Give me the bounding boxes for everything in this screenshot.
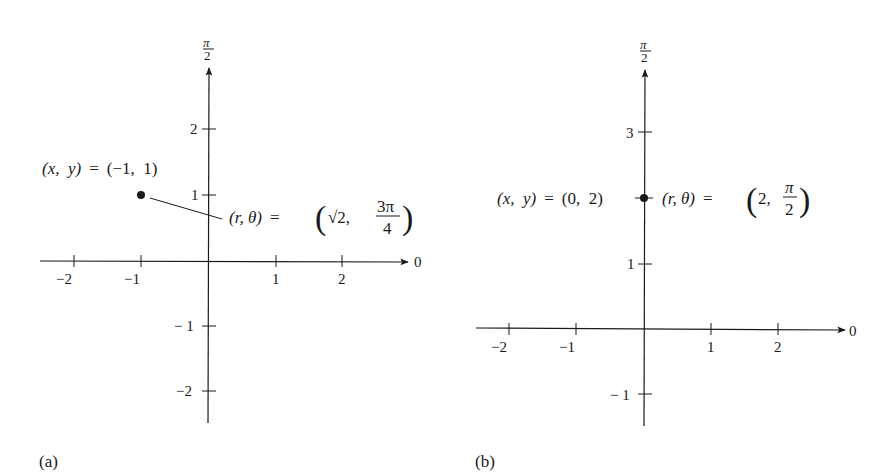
y-tick-label: −2 [176, 383, 192, 399]
svg-text:(: ( [746, 181, 757, 219]
vertical-axis [208, 68, 209, 423]
vertical-axis [644, 70, 645, 426]
figure-a: 0 π 2 −2 −1 1 2 2 1 − 1 −2 (x, y)=(−1, [40, 35, 422, 423]
horizontal-axis [40, 261, 408, 262]
svg-text:(: ( [315, 199, 326, 237]
horizontal-axis [476, 328, 845, 330]
y-tick-label: 2 [190, 121, 198, 137]
x-tick-label: 2 [774, 339, 782, 355]
pi-over-2-denominator: 2 [641, 50, 648, 65]
x-tick-label: 2 [338, 271, 346, 287]
svg-text:(r, θ)=: (r, θ)= [229, 208, 280, 227]
x-tick-label: −1 [559, 339, 575, 355]
caption-a: (a) [39, 452, 58, 472]
polar-coordinates-figure: 0 π 2 −2 −1 1 2 2 1 − 1 −2 (x, y)=(−1, [0, 0, 892, 474]
svg-text:): ) [799, 181, 810, 219]
svg-text:4: 4 [383, 219, 392, 238]
svg-text:3π: 3π [377, 197, 395, 216]
polar-axis-label: 0 [849, 323, 857, 339]
polar-axis-label: 0 [414, 254, 422, 270]
svg-text:2: 2 [785, 200, 794, 219]
pi-over-2-denominator: 2 [204, 48, 211, 63]
svg-text:(r, θ)=: (r, θ)= [662, 189, 713, 208]
x-tick-label: −1 [124, 271, 140, 287]
y-tick-label: 1 [627, 256, 635, 272]
rectangular-coordinates-label: (x, y)=(−1, 1) [42, 159, 157, 178]
plotted-point [137, 191, 145, 199]
polar-coordinates-label: (r, θ)= ( √2, 3π 4 ) [229, 197, 413, 238]
svg-text:π: π [785, 178, 794, 197]
y-tick-label: − 1 [610, 387, 630, 403]
svg-text:√2,: √2, [328, 208, 350, 227]
y-tick-label: 1 [191, 187, 199, 203]
svg-text:): ) [402, 199, 413, 237]
leader-line [150, 198, 222, 219]
y-tick-label: 3 [626, 125, 634, 141]
x-tick-label: 1 [272, 271, 280, 287]
x-tick-label: −2 [491, 339, 507, 355]
caption-b: (b) [475, 452, 495, 472]
x-tick-label: 1 [707, 339, 715, 355]
polar-coordinates-label: (r, θ)= ( 2, π 2 ) [662, 178, 810, 219]
figure-b: 0 π 2 −2 −1 1 2 3 1 − 1 (x, y)=(0, 2) (r… [476, 37, 857, 426]
y-tick-label: − 1 [174, 318, 194, 334]
rectangular-coordinates-label: (x, y)=(0, 2) [497, 189, 603, 208]
x-tick-label: −2 [56, 271, 72, 287]
svg-text:2,: 2, [758, 189, 771, 208]
